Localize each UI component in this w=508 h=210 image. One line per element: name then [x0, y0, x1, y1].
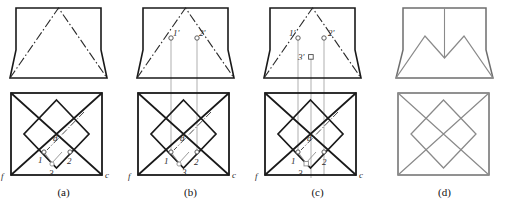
label-3prime-c: 3'	[297, 52, 306, 62]
top-view-a: d 1 2 3 f c	[1, 93, 109, 181]
panel-c-drawing: 1' 2' 3' d 1 2 3 f c	[254, 0, 381, 186]
top-view-c: d 1 2 3 f c	[255, 93, 363, 181]
label-d-c: d	[307, 133, 312, 143]
label-1-c: 1	[291, 156, 296, 166]
label-c-a: c	[105, 170, 109, 180]
panel-a-drawing: d 1 2 3 f c	[0, 0, 127, 186]
caption-b: (b)	[127, 186, 254, 198]
caption-d: (d)	[381, 186, 508, 198]
panel-c: 1' 2' 3' d 1 2 3 f c (c)	[254, 0, 381, 210]
label-3-a: 3	[48, 168, 54, 178]
panel-b: 1' 2' d 1 2 3 f c (b)	[127, 0, 254, 210]
label-f-c: f	[255, 171, 259, 181]
front-center-triangle-b	[137, 8, 234, 78]
front-outline-b	[137, 8, 234, 78]
label-2prime-c: 2'	[328, 28, 336, 38]
point-1-marker-c	[296, 150, 300, 154]
front-view-d	[396, 8, 493, 78]
label-d-a: d	[53, 133, 58, 143]
caption-c: (c)	[254, 186, 381, 198]
label-1-b: 1	[164, 156, 169, 166]
label-2prime-b: 2'	[199, 28, 207, 38]
label-2-b: 2	[194, 157, 199, 167]
point-3-marker-c	[304, 162, 308, 166]
point-1prime-marker-c	[296, 36, 300, 40]
label-f-a: f	[1, 171, 5, 181]
label-d-b: d	[180, 133, 185, 143]
caption-a: (a)	[0, 186, 127, 198]
front-center-triangle-a	[10, 8, 107, 78]
point-2-marker-b	[195, 150, 199, 154]
point-1-marker-b	[169, 150, 173, 154]
panel-b-drawing: 1' 2' d 1 2 3 f c	[127, 0, 254, 186]
label-2-c: 2	[322, 157, 327, 167]
panel-a: d 1 2 3 f c (a)	[0, 0, 127, 210]
figure-orthographic-projection: d 1 2 3 f c (a) 1' 2'	[0, 0, 508, 210]
point-3-marker-a	[50, 162, 54, 166]
label-2-a: 2	[67, 156, 72, 166]
front-view-c: 1' 2' 3'	[264, 8, 361, 78]
panel-d-drawing	[381, 0, 508, 186]
front-view-b: 1' 2'	[137, 8, 234, 78]
front-outline-a	[10, 8, 107, 78]
label-c-c: c	[359, 170, 363, 180]
label-1prime-c: 1'	[289, 28, 297, 38]
label-1prime-b: 1'	[173, 28, 181, 38]
point-2prime-marker-c	[322, 36, 326, 40]
point-3-marker-b	[177, 162, 181, 166]
label-3-c: 3	[297, 168, 303, 178]
point-2-marker-c	[322, 150, 326, 154]
front-view-a	[10, 8, 107, 78]
label-3-b: 3	[181, 167, 187, 177]
point-3prime-marker-c	[309, 55, 314, 60]
front-outline-c	[264, 8, 361, 78]
label-c-b: c	[232, 170, 236, 180]
top-view-d	[398, 93, 489, 175]
top-view-b: d 1 2 3 f c	[128, 93, 236, 181]
point-2-marker-a	[68, 150, 72, 154]
panel-d: (d)	[381, 0, 508, 210]
front-center-triangle-c	[264, 8, 361, 78]
point-1-marker-a	[42, 150, 46, 154]
label-1-a: 1	[38, 155, 43, 165]
label-f-b: f	[128, 171, 132, 181]
